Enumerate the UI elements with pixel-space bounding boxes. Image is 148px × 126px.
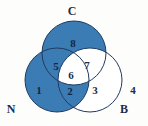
region-label-6: 6: [68, 69, 74, 81]
region-label-4: 4: [130, 84, 136, 96]
set-label-n: N: [7, 102, 16, 116]
region-label-2: 2: [67, 85, 73, 97]
region-label-3: 3: [92, 84, 98, 96]
venn-diagram-canvas: C N B 1 2 3 4 5 6 7 8: [0, 0, 148, 126]
region-label-5: 5: [53, 60, 59, 72]
region-label-8: 8: [70, 37, 76, 49]
set-label-b: B: [120, 102, 128, 116]
venn-diagram-figure: C N B 1 2 3 4 5 6 7 8: [0, 0, 148, 126]
set-label-c: C: [68, 4, 77, 18]
region-label-1: 1: [36, 84, 42, 96]
region-label-7: 7: [84, 59, 90, 71]
